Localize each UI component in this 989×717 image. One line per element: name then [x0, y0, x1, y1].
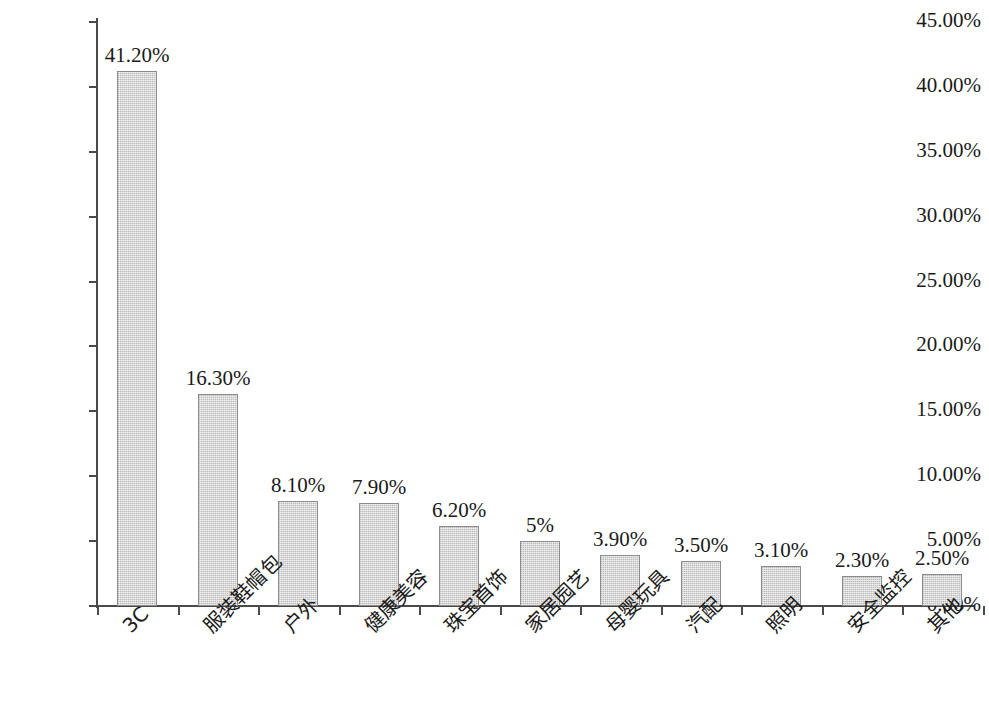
x-axis-tick	[419, 606, 421, 615]
y-axis-tick-label: 15.00%	[897, 399, 981, 420]
y-axis-tick-label: 10.00%	[897, 464, 981, 485]
y-axis-tick	[89, 540, 97, 542]
y-axis-tick	[89, 605, 97, 607]
y-axis-tick-label: 35.00%	[897, 140, 981, 161]
x-axis-tick	[339, 606, 341, 615]
y-axis-tick-label: 20.00%	[897, 334, 981, 355]
y-axis-tick	[89, 345, 97, 347]
x-axis-tick	[983, 606, 985, 615]
x-axis-tick	[661, 606, 663, 615]
bar	[278, 501, 318, 606]
y-axis-tick-label: 25.00%	[897, 270, 981, 291]
y-axis-tick	[89, 86, 97, 88]
x-axis-tick	[97, 606, 99, 615]
y-axis-tick	[89, 151, 97, 153]
y-axis-tick	[89, 410, 97, 412]
x-axis-category-label: 3C	[119, 603, 153, 637]
y-axis-tick	[89, 281, 97, 283]
bar-value-label: 16.30%	[158, 367, 278, 389]
y-axis-tick	[89, 21, 97, 23]
y-axis-tick	[89, 216, 97, 218]
bar	[198, 394, 238, 606]
x-axis-tick	[178, 606, 180, 615]
y-axis-tick	[89, 475, 97, 477]
x-axis-tick	[741, 606, 743, 615]
bar-value-label: 41.20%	[77, 44, 197, 66]
x-axis-tick	[822, 606, 824, 615]
x-axis-tick	[580, 606, 582, 615]
y-axis-line	[96, 18, 98, 608]
bar	[117, 71, 157, 606]
x-axis-tick	[500, 606, 502, 615]
bar-value-label: 7.90%	[319, 476, 439, 498]
x-axis-tick	[902, 606, 904, 615]
y-axis-tick-label: 40.00%	[897, 75, 981, 96]
x-axis-tick	[258, 606, 260, 615]
y-axis-tick-label: 30.00%	[897, 205, 981, 226]
y-axis-tick-label: 45.00%	[897, 10, 981, 31]
